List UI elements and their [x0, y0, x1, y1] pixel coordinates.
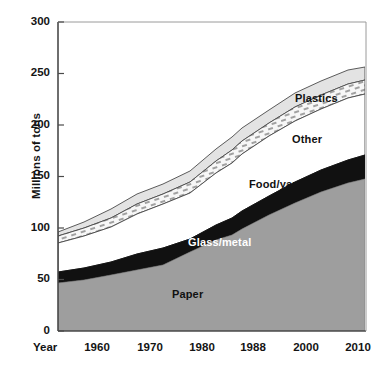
y-tick-200: 200	[16, 118, 50, 130]
y-tick-150: 150	[16, 169, 50, 181]
x-tick-1960: 1960	[77, 341, 117, 353]
y-tick-0: 0	[16, 324, 50, 336]
series-label-other: Other	[292, 133, 322, 145]
series-label-food-yard: Food/yard	[249, 178, 304, 190]
x-tick-1980: 1980	[182, 341, 222, 353]
chart-plot-area	[0, 0, 386, 377]
x-tick-1988: 1988	[233, 341, 273, 353]
y-tick-50: 50	[16, 272, 50, 284]
x-tick-2000: 2000	[286, 341, 326, 353]
y-tick-300: 300	[16, 15, 50, 27]
y-tick-250: 250	[16, 66, 50, 78]
x-tick-2010: 2010	[338, 341, 378, 353]
y-axis-title: Millions of tons	[30, 86, 42, 226]
stacked-area-chart: Millions of tons 300 250 200 150 100 50 …	[0, 0, 386, 377]
x-axis-title: Year	[33, 341, 57, 353]
series-label-paper: Paper	[172, 288, 203, 300]
series-label-plastics: Plastics	[295, 92, 338, 104]
x-tick-1970: 1970	[130, 341, 170, 353]
y-tick-100: 100	[16, 221, 50, 233]
series-label-glass-metal: Glass/metal	[188, 236, 251, 248]
